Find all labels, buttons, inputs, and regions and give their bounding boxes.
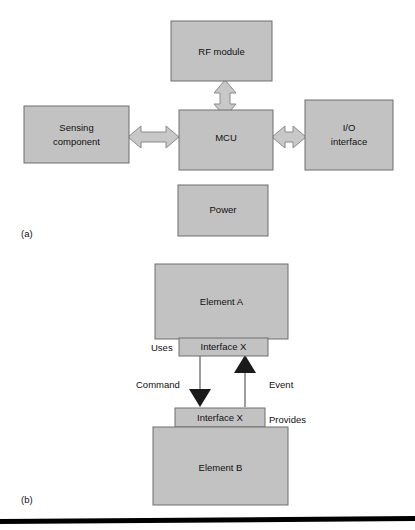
double-arrow-horizontal-icon bbox=[272, 126, 306, 148]
event-arrow-head-icon bbox=[234, 355, 256, 373]
panel-a-caption: (a) bbox=[21, 228, 33, 239]
label-command: Command bbox=[136, 379, 180, 390]
box-io-interface: I/O interface bbox=[305, 100, 393, 170]
panel-b-caption: (b) bbox=[21, 494, 33, 505]
box-power-label: Power bbox=[210, 204, 237, 215]
label-uses: Uses bbox=[151, 342, 173, 353]
connector-mcu-io bbox=[272, 126, 306, 148]
box-rf-module-label: RF module bbox=[198, 46, 244, 57]
panel-b: Element A Interface X Interface X Elemen… bbox=[21, 264, 306, 505]
label-event: Event bbox=[269, 379, 294, 390]
box-sensing-component-rect bbox=[24, 106, 129, 163]
figure-canvas: RF module Sensing component MCU I/O inte… bbox=[0, 0, 415, 530]
box-sensing-component-label-line2: component bbox=[53, 136, 100, 147]
connector-sensing-mcu bbox=[128, 126, 179, 148]
bottom-rule bbox=[0, 516, 415, 524]
panel-a: RF module Sensing component MCU I/O inte… bbox=[21, 21, 393, 239]
double-arrow-horizontal-icon bbox=[128, 126, 179, 148]
box-element-b: Element B bbox=[153, 427, 288, 505]
box-element-b-label: Element B bbox=[199, 462, 243, 473]
box-interface-x-top: Interface X bbox=[179, 338, 268, 356]
box-interface-x-bottom-label: Interface X bbox=[197, 412, 244, 423]
box-mcu: MCU bbox=[179, 110, 273, 170]
box-sensing-component-label-line1: Sensing bbox=[59, 122, 93, 133]
box-io-interface-label-line1: I/O bbox=[343, 122, 356, 133]
figure-page: RF module Sensing component MCU I/O inte… bbox=[0, 0, 415, 530]
box-sensing-component: Sensing component bbox=[24, 106, 129, 163]
box-mcu-label: MCU bbox=[215, 132, 237, 143]
box-power: Power bbox=[178, 185, 268, 236]
box-interface-x-bottom: Interface X bbox=[175, 408, 265, 427]
box-element-a-label: Element A bbox=[200, 296, 244, 307]
connector-command bbox=[189, 355, 211, 407]
box-interface-x-top-label: Interface X bbox=[201, 341, 248, 352]
label-provides: Provides bbox=[269, 414, 306, 425]
connector-event bbox=[234, 355, 256, 407]
box-io-interface-label-line2: interface bbox=[331, 136, 367, 147]
command-arrow-head-icon bbox=[189, 389, 211, 407]
box-rf-module: RF module bbox=[171, 21, 272, 81]
box-element-a: Element A bbox=[155, 264, 288, 339]
